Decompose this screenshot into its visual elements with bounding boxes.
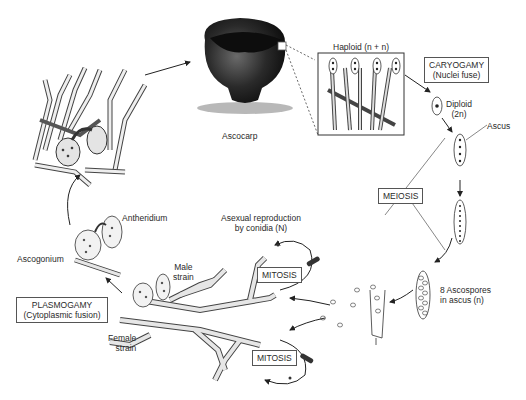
ascus-4-nuclei [454, 134, 466, 166]
mitosis-box-bottom: MITOSIS [252, 350, 297, 366]
label-ascocarp: Ascocarp [222, 131, 257, 141]
caryogamy-box: CARYOGAMY (Nuclei fuse) [424, 57, 489, 83]
diploid-text: Diploid [446, 99, 472, 109]
antheridium-ascogonium-illustration [75, 216, 122, 275]
meiosis-box: MEIOSIS [378, 188, 423, 204]
ascus-8-nuclei [454, 200, 466, 244]
mitosis-box-top: MITOSIS [257, 267, 302, 283]
plasmogamy-box: PLASMOGAMY (Cytoplasmic fusion) [16, 297, 108, 323]
male-text: Male [173, 262, 194, 272]
diploid-cell-illustration [432, 97, 442, 115]
female-text: Female [108, 333, 136, 343]
plasmogamy-title: PLASMOGAMY [21, 300, 103, 310]
ascospores-ploidy: in ascus (n) [440, 295, 491, 305]
plasmogamy-subtitle: (Cytoplasmic fusion) [21, 310, 103, 320]
label-diploid: Diploid (2n) [446, 99, 472, 119]
caryogamy-subtitle: (Nuclei fuse) [429, 70, 484, 80]
ascogenous-hyphae-illustration [35, 68, 145, 185]
label-ascus: Ascus [487, 121, 510, 131]
ascocarp-illustration [197, 18, 293, 114]
ascospores-text: 8 Ascospores [440, 285, 491, 295]
asexual-conidia: by conidia (N) [221, 223, 301, 233]
label-ascospores: 8 Ascospores in ascus (n) [440, 285, 491, 305]
caryogamy-title: CARYOGAMY [429, 60, 484, 70]
label-female-strain: Female strain [108, 333, 136, 353]
label-haploid: Haploid (n + n) [333, 42, 389, 52]
label-ascogonium: Ascogonium [17, 254, 64, 264]
ascus-ascospores [416, 271, 430, 319]
male-strain-text: strain [173, 272, 194, 282]
asexual-text: Asexual reproduction [221, 213, 301, 223]
label-asexual-reproduction: Asexual reproduction by conidia (N) [221, 213, 301, 233]
haploid-hymenium-illustration [318, 53, 404, 135]
label-male-strain: Male strain [173, 262, 194, 282]
diploid-ploidy: (2n) [446, 109, 472, 119]
female-strain-text: strain [108, 343, 136, 353]
label-antheridium: Antheridium [122, 213, 167, 223]
